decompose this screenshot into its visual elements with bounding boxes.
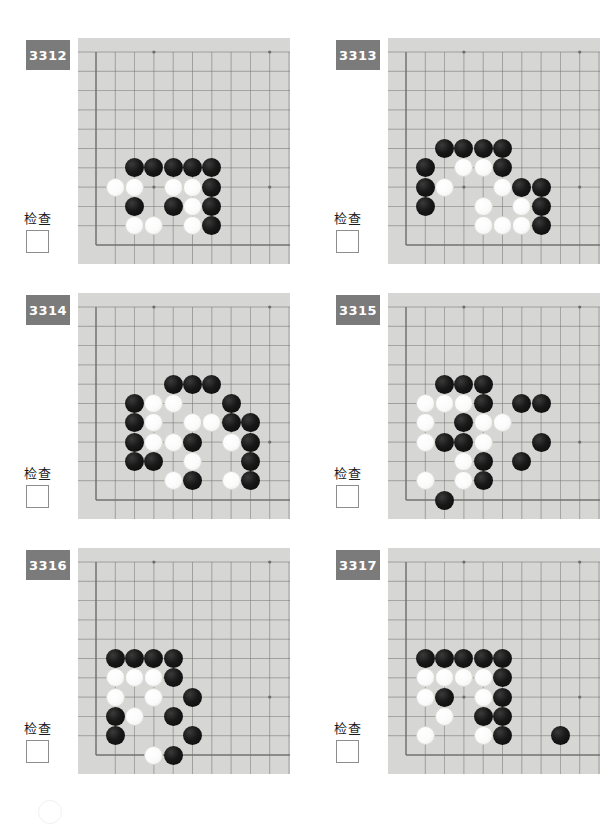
- black-stone: [532, 394, 551, 413]
- black-stone: [241, 433, 260, 452]
- black-stone: [435, 433, 454, 452]
- white-stone: [474, 668, 493, 687]
- white-stone: [222, 471, 241, 490]
- go-board[interactable]: [388, 293, 600, 519]
- white-stone: [474, 158, 493, 177]
- white-stone: [106, 178, 125, 197]
- black-stone: [183, 375, 202, 394]
- black-stone: [532, 433, 551, 452]
- black-stone: [474, 452, 493, 471]
- black-stone: [493, 139, 512, 158]
- white-stone: [474, 197, 493, 216]
- black-stone: [164, 158, 183, 177]
- check-label: 检查: [334, 718, 362, 737]
- white-stone: [125, 178, 144, 197]
- black-stone: [202, 375, 221, 394]
- black-stone: [183, 433, 202, 452]
- go-problem-3317: 3317检查: [310, 540, 608, 795]
- problem-side-column: 3312检查: [18, 30, 80, 262]
- check-label: 检查: [334, 208, 362, 227]
- white-stone: [435, 394, 454, 413]
- black-stone: [532, 178, 551, 197]
- white-stone: [125, 707, 144, 726]
- check-checkbox[interactable]: [336, 230, 359, 253]
- go-problem-3313: 3313检查: [310, 30, 608, 285]
- go-problem-3312: 3312检查: [0, 30, 298, 285]
- black-stone: [202, 178, 221, 197]
- white-stone: [474, 433, 493, 452]
- check-label: 检查: [24, 463, 52, 482]
- white-stone: [144, 433, 163, 452]
- check-checkbox[interactable]: [336, 485, 359, 508]
- check-label: 检查: [24, 718, 52, 737]
- problem-id-badge: 3312: [26, 40, 70, 70]
- black-stone: [106, 649, 125, 668]
- check-checkbox[interactable]: [26, 485, 49, 508]
- white-stone: [164, 471, 183, 490]
- white-stone: [164, 178, 183, 197]
- black-stone: [474, 394, 493, 413]
- black-stone: [474, 375, 493, 394]
- black-stone: [125, 452, 144, 471]
- go-problem-3316: 3316检查: [0, 540, 298, 795]
- black-stone: [416, 178, 435, 197]
- check-checkbox[interactable]: [26, 740, 49, 763]
- black-stone: [454, 375, 473, 394]
- black-stone: [164, 649, 183, 668]
- black-stone: [435, 688, 454, 707]
- white-stone: [416, 688, 435, 707]
- black-stone: [435, 649, 454, 668]
- black-stone: [164, 746, 183, 765]
- check-label: 检查: [24, 208, 52, 227]
- black-stone: [106, 726, 125, 745]
- black-stone: [454, 433, 473, 452]
- problem-side-column: 3313检查: [328, 30, 390, 262]
- footer-circle-icon: [38, 800, 62, 824]
- white-stone: [435, 178, 454, 197]
- white-stone: [474, 726, 493, 745]
- black-stone: [474, 649, 493, 668]
- black-stone: [241, 452, 260, 471]
- go-problem-3315: 3315检查: [310, 285, 608, 540]
- white-stone: [416, 433, 435, 452]
- go-board[interactable]: [78, 548, 290, 774]
- black-stone: [241, 471, 260, 490]
- white-stone: [183, 197, 202, 216]
- black-stone: [493, 707, 512, 726]
- black-stone: [125, 394, 144, 413]
- black-stone: [493, 688, 512, 707]
- white-stone: [493, 178, 512, 197]
- problem-side-column: 3315检查: [328, 285, 390, 517]
- problem-id-badge: 3316: [26, 550, 70, 580]
- white-stone: [222, 433, 241, 452]
- go-board[interactable]: [78, 293, 290, 519]
- black-stone: [474, 139, 493, 158]
- black-stone: [164, 668, 183, 687]
- check-checkbox[interactable]: [26, 230, 49, 253]
- problem-id-badge: 3315: [336, 295, 380, 325]
- white-stone: [164, 433, 183, 452]
- black-stone: [222, 413, 241, 432]
- go-board[interactable]: [388, 548, 600, 774]
- black-stone: [222, 394, 241, 413]
- check-checkbox[interactable]: [336, 740, 359, 763]
- go-board[interactable]: [388, 38, 600, 264]
- black-stone: [532, 216, 551, 235]
- problem-side-column: 3317检查: [328, 540, 390, 772]
- go-board[interactable]: [78, 38, 290, 264]
- white-stone: [474, 688, 493, 707]
- black-stone: [183, 688, 202, 707]
- problem-id-badge: 3317: [336, 550, 380, 580]
- white-stone: [474, 413, 493, 432]
- black-stone: [474, 707, 493, 726]
- black-stone: [512, 178, 531, 197]
- black-stone: [416, 197, 435, 216]
- white-stone: [106, 688, 125, 707]
- white-stone: [435, 707, 454, 726]
- black-stone: [164, 197, 183, 216]
- white-stone: [416, 394, 435, 413]
- black-stone: [416, 649, 435, 668]
- black-stone: [125, 197, 144, 216]
- white-stone: [144, 688, 163, 707]
